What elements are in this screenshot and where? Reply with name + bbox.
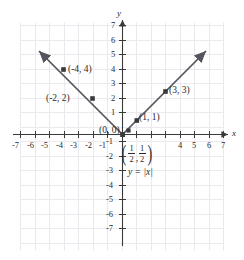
y-tick-label-neg7: -7: [106, 224, 113, 233]
x-tick-label-neg2: -2: [85, 141, 92, 150]
point-marker-3-3: [163, 89, 168, 94]
open-paren: (: [121, 145, 126, 163]
x-tick-label-7: 7: [221, 141, 225, 150]
point-label-neg4-4: (-4, 4): [68, 65, 92, 75]
x-tick-label-neg6: -6: [27, 141, 34, 150]
y-tick-label-2: 2: [111, 94, 115, 103]
numerator: 1: [130, 144, 134, 153]
y-tick-label-7: 7: [111, 21, 115, 30]
y-tick-label-neg5: -5: [106, 195, 113, 204]
y-tick-label-neg3: -3: [106, 166, 113, 175]
y-tick-label-4: 4: [111, 65, 115, 74]
x-tick-label-4: 4: [178, 141, 182, 150]
point-label-1-1: (1, 1): [139, 113, 160, 123]
absolute-value-graph-figure: -7 -6 -5 -4 -3 -2 -1 4 5 6 7 7 6 5 4 3 2…: [0, 0, 244, 260]
x-tick-label-5: 5: [192, 141, 196, 150]
x-tick-label-neg7: -7: [12, 141, 19, 150]
y-tick-label-neg2: -2: [106, 152, 113, 161]
y-tick-label-6: 6: [111, 36, 115, 45]
x-tick-label-neg5: -5: [41, 141, 48, 150]
y-tick-label-neg4: -4: [106, 181, 113, 190]
point-marker-half-half: [126, 128, 130, 132]
x-tick-label-neg4: -4: [56, 141, 63, 150]
x-tick-label-6: 6: [207, 141, 211, 150]
fraction-one-half-first: 1 2: [128, 144, 136, 164]
denominator: 2: [140, 155, 144, 164]
point-label-3-3: (3, 3): [169, 86, 190, 96]
y-tick-label-5: 5: [111, 50, 115, 59]
point-marker-origin: [120, 132, 125, 137]
point-marker-neg2-2: [90, 96, 95, 101]
point-marker-neg4-4: [61, 67, 66, 72]
x-tick-label-neg3: -3: [70, 141, 77, 150]
denominator: 2: [130, 155, 134, 164]
point-label-half-half: ( 1 2 , 1 2 ): [120, 144, 154, 164]
y-tick-label-1: 1: [111, 108, 115, 117]
x-axis-name: x: [232, 129, 236, 138]
numerator: 1: [140, 144, 144, 153]
y-tick-label-neg6: -6: [106, 210, 113, 219]
close-paren: ): [148, 145, 153, 163]
fraction-one-half-second: 1 2: [138, 144, 146, 164]
y-axis-name: y: [117, 9, 121, 18]
coordinate-plane-svg: [0, 0, 244, 260]
point-label-origin: (0, 0): [99, 126, 120, 136]
point-label-neg2-2: (-2, 2): [46, 94, 70, 104]
y-tick-label-neg1: -1: [106, 137, 113, 146]
y-tick-label-3: 3: [111, 79, 115, 88]
equation-label: y = |x|: [128, 168, 153, 178]
